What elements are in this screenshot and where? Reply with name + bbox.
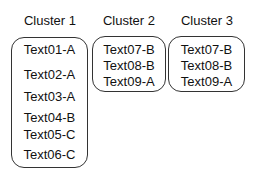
list-item: Text07-B — [169, 42, 244, 57]
list-item: Text05-C — [12, 127, 87, 142]
cluster-1-box: Text01-A Text02-A Text03-A Text04-B Text… — [11, 37, 88, 168]
list-item: Text09-A — [93, 74, 165, 89]
list-item: Text03-A — [12, 89, 87, 104]
cluster-3-box: Text07-B Text08-B Text09-A — [168, 36, 245, 92]
list-item: Text09-A — [169, 74, 244, 89]
cluster-3-title: Cluster 3 — [168, 13, 246, 28]
cluster-2-box: Text07-B Text08-B Text09-A — [92, 36, 166, 92]
list-item: Text04-B — [12, 110, 87, 125]
list-item: Text08-B — [169, 58, 244, 73]
list-item: Text07-B — [93, 42, 165, 57]
cluster-2-title: Cluster 2 — [92, 13, 166, 28]
list-item: Text01-A — [12, 42, 87, 57]
cluster-1-title: Cluster 1 — [12, 13, 88, 28]
list-item: Text06-C — [12, 147, 87, 162]
list-item: Text02-A — [12, 67, 87, 82]
list-item: Text08-B — [93, 58, 165, 73]
